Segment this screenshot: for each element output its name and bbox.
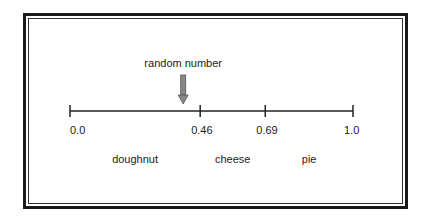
segment-label: pie <box>302 153 317 165</box>
segment-label: doughnut <box>112 153 158 165</box>
tick-label: 0.69 <box>256 124 277 136</box>
segment-label: cheese <box>215 153 250 165</box>
tick-label: 1.0 <box>344 124 359 136</box>
tick-label: 0.46 <box>191 124 212 136</box>
random-number-label: random number <box>144 57 222 69</box>
arrow-head <box>178 95 188 104</box>
down-arrow-icon <box>178 75 188 104</box>
arrow-shaft <box>181 75 186 95</box>
tick-label: 0.0 <box>70 124 85 136</box>
number-line-diagram <box>0 0 427 217</box>
